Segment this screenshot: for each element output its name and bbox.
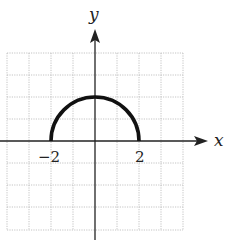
y-axis-label: y xyxy=(88,4,99,24)
x-tick-pos-2: 2 xyxy=(135,148,145,166)
x-tick-neg-2: −2 xyxy=(38,148,60,166)
graph: x y −2 2 xyxy=(0,0,229,243)
x-axis-label: x xyxy=(214,130,224,150)
